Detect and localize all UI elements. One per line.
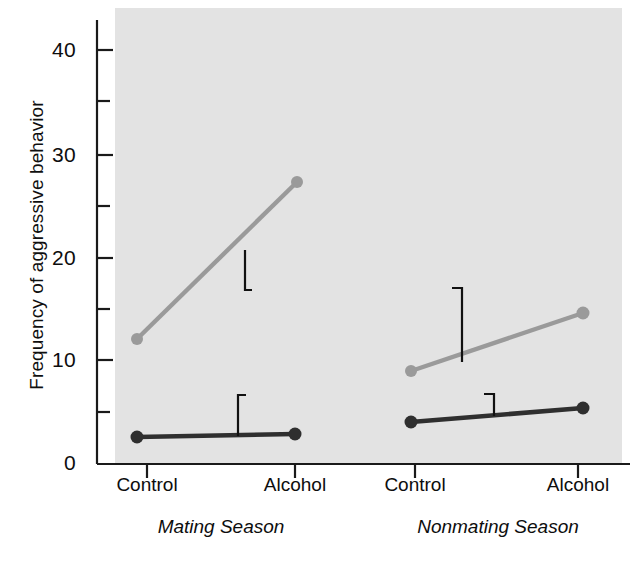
series-subordinate-segment-mating	[137, 434, 295, 437]
chart-figure: Frequency of aggressive behavior 40 30 2…	[0, 0, 639, 561]
data-point-dominant-mating-control	[131, 333, 143, 345]
data-point-subordinate-mating-alcohol	[289, 428, 302, 441]
data-point-subordinate-nonmating-control	[405, 416, 418, 429]
data-point-dominant-nonmating-control	[405, 365, 417, 377]
data-point-subordinate-nonmating-alcohol	[577, 402, 590, 415]
plot-background	[115, 8, 622, 464]
data-point-subordinate-mating-control	[131, 431, 144, 444]
data-point-dominant-nonmating-alcohol	[577, 307, 590, 320]
plot-canvas	[0, 0, 639, 561]
data-point-dominant-mating-alcohol	[291, 176, 303, 188]
